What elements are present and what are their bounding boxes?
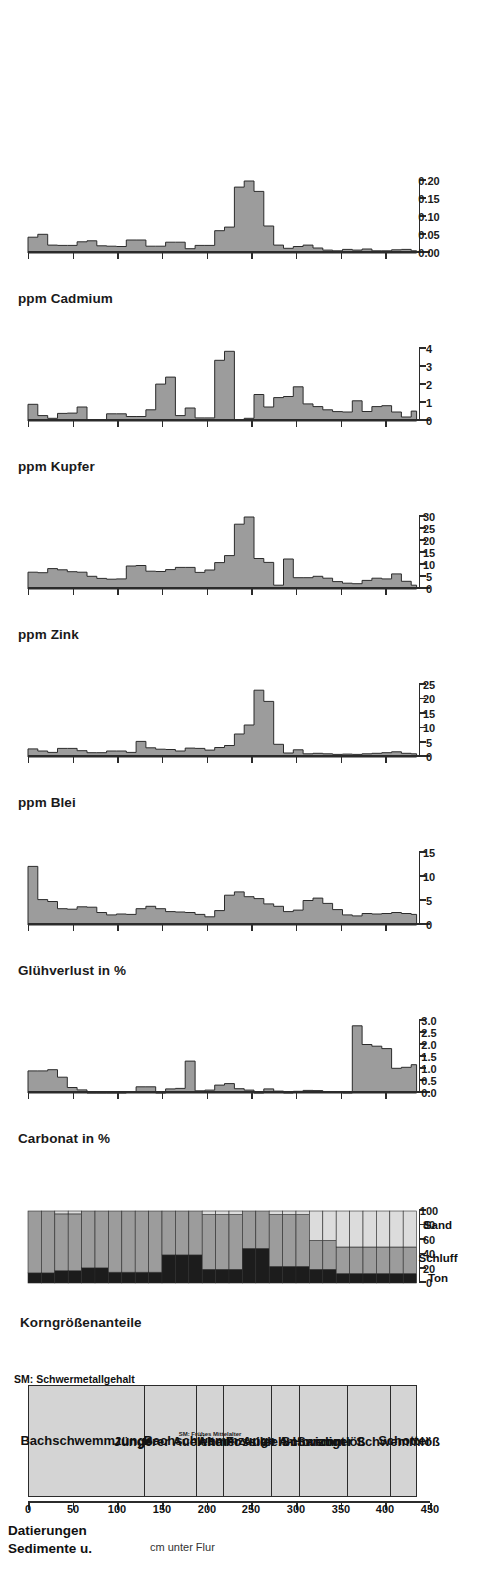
kupfer-tick (419, 366, 426, 368)
carbonat-depth-tick (251, 1093, 252, 1099)
korngroesse-tick-label: 100 (419, 1205, 437, 1217)
cadmium-depth-tick (251, 253, 252, 259)
cadmium-depth-tick (162, 253, 163, 259)
chart-panel-gluehverlust: Glühverlust in %051015 (0, 835, 478, 985)
korngroesse-legend-sand: Sand (424, 1219, 452, 1231)
blei-depth-tick (251, 757, 252, 763)
blei-depth-tick (207, 757, 208, 763)
kupfer-tick-label: 4 (426, 343, 432, 355)
sediment-units-box: BachschwemmzungeJüngerer AuelehmBachschw… (28, 1385, 417, 1497)
depth-tick-label: 50 (67, 1503, 79, 1515)
sediment-footnote: SM: Schwermetallgehalt (14, 1373, 135, 1385)
carbonat-depth-tick (73, 1093, 74, 1099)
carbonat-tick-label: 2.0 (421, 1039, 436, 1051)
gluehverlust-depth-tick (73, 925, 74, 931)
depth-tick-label: 300 (287, 1503, 305, 1515)
cadmium-depth-tick (341, 253, 342, 259)
blei-depth-tick (385, 757, 386, 763)
depth-tick-label: 0 (25, 1503, 31, 1515)
kupfer-tick-label: 3 (426, 361, 432, 373)
depth-tick-label: 450 (421, 1503, 439, 1515)
kupfer-tick (419, 402, 426, 404)
gluehverlust-tick-label: 0 (426, 919, 432, 931)
kupfer-value-axis (419, 349, 421, 421)
gluehverlust-plot (0, 835, 478, 985)
korngroesse-legend-schluff: Schluff (419, 1252, 458, 1264)
cadmium-baseline (28, 252, 430, 254)
kupfer-tick-label: 2 (426, 379, 432, 391)
zink-depth-tick (296, 589, 297, 595)
cadmium-tick-label: 0.10 (418, 211, 439, 223)
carbonat-tick-label: 1.5 (421, 1051, 436, 1063)
chart-panel-korngroesse: Korngrößenanteile020406080100TonSchluffS… (0, 1177, 478, 1335)
cadmium-depth-tick (117, 253, 118, 259)
chart-panel-kupfer: ppm Kupfer01234 (0, 331, 478, 481)
carbonat-depth-tick (207, 1093, 208, 1099)
depth-tick-label: 100 (108, 1503, 126, 1515)
zink-depth-tick (117, 589, 118, 595)
chart-panel-blei: ppm Blei0510152025 (0, 667, 478, 817)
sediment-unit-label: Schotter (378, 1434, 431, 1449)
blei-tick-label: 0 (426, 751, 432, 763)
blei-depth-tick (117, 757, 118, 763)
gluehverlust-depth-tick (207, 925, 208, 931)
carbonat-baseline (28, 1092, 430, 1094)
carbonat-tick-label: 1.0 (421, 1063, 436, 1075)
depth-tick-label: 400 (376, 1503, 394, 1515)
gluehverlust-depth-tick (296, 925, 297, 931)
zink-tick (419, 588, 426, 590)
blei-tick (419, 741, 426, 743)
zink-tick-label: 20 (422, 535, 434, 547)
kupfer-tick (419, 348, 426, 350)
zink-tick-label: 0 (426, 583, 432, 595)
cadmium-depth-tick (28, 253, 29, 259)
cadmium-depth-tick (73, 253, 74, 259)
kupfer-depth-tick (162, 421, 163, 427)
blei-tick (419, 756, 426, 758)
carbonat-depth-tick (162, 1093, 163, 1099)
blei-baseline (28, 756, 430, 758)
blei-depth-tick (341, 757, 342, 763)
blei-value-axis (419, 685, 421, 757)
gluehverlust-depth-tick (162, 925, 163, 931)
cadmium-depth-tick (385, 253, 386, 259)
gluehverlust-tick (419, 900, 426, 902)
blei-depth-tick (296, 757, 297, 763)
depth-tick-label: 150 (153, 1503, 171, 1515)
zink-tick-label: 25 (422, 523, 434, 535)
gluehverlust-baseline (28, 924, 430, 926)
gluehverlust-tick-label: 5 (426, 895, 432, 907)
blei-tick-label: 25 (422, 679, 434, 691)
korngroesse-tick-label: 60 (422, 1234, 434, 1246)
gluehverlust-tick-label: 10 (422, 871, 434, 883)
carbonat-depth-tick (28, 1093, 29, 1099)
chart-panel-cadmium: ppm Cadmium0.000.050.100.150.20 (0, 163, 478, 313)
depth-axis-line (28, 1501, 430, 1503)
korngroesse-value-axis (419, 1211, 421, 1283)
kupfer-depth-tick (73, 421, 74, 427)
depth-axis-title: cm unter Flur (150, 1541, 215, 1553)
kupfer-depth-tick (341, 421, 342, 427)
gluehverlust-tick (419, 924, 426, 926)
zink-depth-tick (207, 589, 208, 595)
zink-depth-tick (251, 589, 252, 595)
sediment-unit-7[interactable]: Schotter (391, 1386, 418, 1496)
zink-depth-tick (341, 589, 342, 595)
carbonat-tick-label: 3.0 (421, 1015, 436, 1027)
blei-depth-tick (162, 757, 163, 763)
zink-tick-label: 10 (422, 559, 434, 571)
cadmium-tick-label: 0.20 (418, 175, 439, 187)
gluehverlust-depth-tick (28, 925, 29, 931)
gluehverlust-depth-tick (251, 925, 252, 931)
zink-baseline (28, 588, 430, 590)
kupfer-depth-tick (207, 421, 208, 427)
depth-tick-label: 200 (197, 1503, 215, 1515)
cadmium-tick-label: 0.05 (418, 229, 439, 241)
kupfer-depth-tick (28, 421, 29, 427)
carbonat-depth-tick (341, 1093, 342, 1099)
sediment-core-figure: Sedimente u.DatierungenBachschwemmzungeJ… (0, 0, 478, 1585)
kupfer-tick-label: 0 (426, 415, 432, 427)
blei-tick-label: 20 (422, 693, 434, 705)
blei-depth-tick (28, 757, 29, 763)
kupfer-depth-tick (251, 421, 252, 427)
